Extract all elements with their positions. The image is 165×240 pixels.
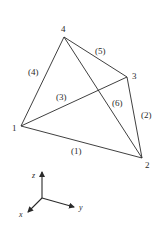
edge-1-4 [21,37,64,126]
node-label: 3 [132,71,137,81]
y-axis-label: y [78,203,83,212]
diagram-svg: (1)(2)(3)(4)(5)(6) 1234 zyx [0,0,165,240]
z-axis-label: z [31,171,36,180]
node-label: 4 [61,24,66,34]
tetrahedron-diagram: (1)(2)(3)(4)(5)(6) 1234 zyx [0,0,165,240]
edges-group [21,37,142,158]
edge-4-3 [64,37,127,77]
edge-label: (3) [56,92,67,102]
x-axis-label: x [18,210,23,219]
edge-label: (1) [71,146,82,156]
edge-1-2 [21,126,142,158]
edge-label: (6) [112,98,123,108]
edge-label: (5) [95,46,106,56]
x-axis-arrow-icon [28,198,42,212]
edge-label: (4) [28,67,39,77]
edge-label: (2) [141,110,152,120]
node-label: 2 [145,160,150,170]
y-axis-arrow-icon [42,198,74,207]
node-label: 1 [12,123,17,133]
edge-labels-group: (1)(2)(3)(4)(5)(6) [28,46,152,156]
coordinate-axes: zyx [18,171,83,219]
